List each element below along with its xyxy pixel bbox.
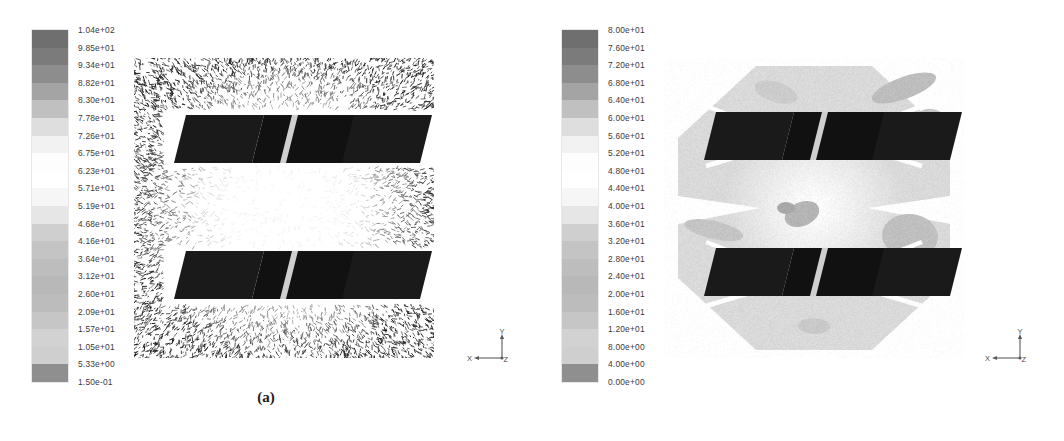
colorbar-tick-label: 3.64e+01 xyxy=(78,254,115,263)
subcaption-a: (a) xyxy=(0,389,532,406)
colorbar-tick-label: 5.33e+00 xyxy=(78,360,115,369)
colorbar-tick-label: 2.09e+01 xyxy=(78,307,115,316)
colorbar-tick-label: 1.20e+01 xyxy=(608,325,645,334)
colorbar-band xyxy=(32,118,68,136)
axis-triad-b: Y X Z xyxy=(976,328,1032,374)
colorbar-tick-label: 4.00e+01 xyxy=(608,202,645,211)
colorbar-band xyxy=(32,188,68,206)
colorbar-a-gradient xyxy=(32,30,68,382)
panel-a: 1.04e+029.85e+019.34e+018.82e+018.30e+01… xyxy=(0,0,532,441)
colorbar-band xyxy=(562,241,598,259)
colorbar-band xyxy=(32,347,68,365)
colorbar-tick-label: 6.80e+01 xyxy=(608,78,645,87)
colorbar-band xyxy=(562,65,598,83)
colorbar-tick-label: 1.04e+02 xyxy=(78,26,115,35)
colorbar-band xyxy=(32,224,68,242)
axis-triad-a-z-label: Z xyxy=(504,355,509,364)
colorbar-tick-label: 1.60e+01 xyxy=(608,307,645,316)
colorbar-band xyxy=(32,364,68,382)
colorbar-tick-label: 5.60e+01 xyxy=(608,131,645,140)
colorbar-tick-label: 3.60e+01 xyxy=(608,219,645,228)
colorbar-band xyxy=(562,206,598,224)
colorbar-tick-label: 4.00e+00 xyxy=(608,360,645,369)
colorbar-band xyxy=(32,171,68,189)
colorbar-tick-label: 2.00e+01 xyxy=(608,290,645,299)
colorbar-tick-label: 2.60e+01 xyxy=(78,290,115,299)
colorbar-tick-label: 3.20e+01 xyxy=(608,237,645,246)
colorbar-band xyxy=(32,100,68,118)
colorbar-tick-label: 7.60e+01 xyxy=(608,43,645,52)
colorbar-tick-label: 2.40e+01 xyxy=(608,272,645,281)
colorbar-band xyxy=(562,153,598,171)
colorbar-band xyxy=(32,48,68,66)
colorbar-band xyxy=(562,100,598,118)
colorbar-band xyxy=(562,30,598,48)
plot-b-contour xyxy=(664,58,964,358)
axis-triad-b-z-label: Z xyxy=(1022,355,1027,364)
colorbar-band xyxy=(562,171,598,189)
colorbar-band xyxy=(562,294,598,312)
colorbar-band xyxy=(32,259,68,277)
axis-triad-b-y-label: Y xyxy=(1018,328,1023,336)
plot-a-velocity-vectors xyxy=(134,58,434,358)
axis-triad-a-y-label: Y xyxy=(500,328,505,336)
colorbar-band xyxy=(32,136,68,154)
colorbar-band xyxy=(562,48,598,66)
colorbar-tick-label: 6.23e+01 xyxy=(78,166,115,175)
colorbar-band xyxy=(562,118,598,136)
colorbar-tick-label: 8.00e+01 xyxy=(608,26,645,35)
colorbar-band xyxy=(32,65,68,83)
colorbar-band xyxy=(32,206,68,224)
colorbar-tick-label: 5.19e+01 xyxy=(78,202,115,211)
colorbar-tick-label: 9.34e+01 xyxy=(78,61,115,70)
colorbar-band xyxy=(32,153,68,171)
colorbar-band xyxy=(562,364,598,382)
colorbar-b-gradient xyxy=(562,30,598,382)
colorbar-tick-label: 4.40e+01 xyxy=(608,184,645,193)
axis-triad-a-x-label: X xyxy=(467,354,472,363)
colorbar-tick-label: 7.26e+01 xyxy=(78,131,115,140)
colorbar-tick-label: 6.00e+01 xyxy=(608,114,645,123)
colorbar-tick-label: 7.78e+01 xyxy=(78,114,115,123)
colorbar-band xyxy=(32,276,68,294)
colorbar-tick-label: 4.16e+01 xyxy=(78,237,115,246)
panel-b: 8.00e+017.60e+017.20e+016.80e+016.40e+01… xyxy=(532,0,1064,441)
colorbar-tick-label: 1.57e+01 xyxy=(78,325,115,334)
axis-triad-a: Y X Z xyxy=(458,328,514,374)
colorbar-band xyxy=(562,224,598,242)
colorbar-band xyxy=(562,136,598,154)
colorbar-tick-label: 4.80e+01 xyxy=(608,166,645,175)
colorbar-band xyxy=(32,312,68,330)
colorbar-band xyxy=(562,329,598,347)
colorbar-band xyxy=(562,347,598,365)
colorbar-band xyxy=(562,188,598,206)
colorbar-band xyxy=(32,329,68,347)
colorbar-tick-label: 1.50e-01 xyxy=(78,378,113,387)
colorbar-tick-label: 4.68e+01 xyxy=(78,219,115,228)
colorbar-tick-label: 2.80e+01 xyxy=(608,254,645,263)
colorbar-band xyxy=(562,312,598,330)
axis-triad-b-x-label: X xyxy=(985,354,990,363)
colorbar-band xyxy=(32,30,68,48)
colorbar-band xyxy=(562,83,598,101)
colorbar-tick-label: 8.00e+00 xyxy=(608,342,645,351)
colorbar-tick-label: 5.20e+01 xyxy=(608,149,645,158)
colorbar-tick-label: 1.05e+01 xyxy=(78,342,115,351)
figure-root: 1.04e+029.85e+019.34e+018.82e+018.30e+01… xyxy=(0,0,1064,441)
colorbar-tick-label: 5.71e+01 xyxy=(78,184,115,193)
colorbar-band xyxy=(32,241,68,259)
colorbar-band xyxy=(32,83,68,101)
colorbar-tick-label: 6.75e+01 xyxy=(78,149,115,158)
colorbar-tick-label: 6.40e+01 xyxy=(608,96,645,105)
colorbar-tick-label: 3.12e+01 xyxy=(78,272,115,281)
colorbar-tick-label: 8.82e+01 xyxy=(78,78,115,87)
colorbar-tick-label: 9.85e+01 xyxy=(78,43,115,52)
colorbar-band xyxy=(562,259,598,277)
colorbar-tick-label: 8.30e+01 xyxy=(78,96,115,105)
colorbar-tick-label: 7.20e+01 xyxy=(608,61,645,70)
colorbar-band xyxy=(32,294,68,312)
colorbar-band xyxy=(562,276,598,294)
colorbar-tick-label: 0.00e+00 xyxy=(608,378,645,387)
